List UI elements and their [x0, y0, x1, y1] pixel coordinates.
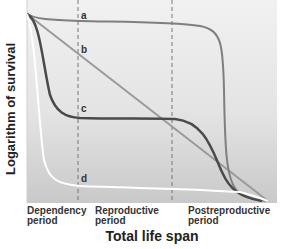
x-tick-postreproductive-line2: period — [188, 216, 270, 226]
x-tick-postreproductive: Postreproductive period — [188, 206, 270, 226]
x-tick-reproductive-line2: period — [95, 216, 159, 226]
y-axis-label: Logarithm of survival — [3, 43, 18, 175]
x-tick-dependency: Dependency period — [27, 206, 86, 226]
curve-label-d: d — [81, 173, 87, 184]
curve-b — [27, 14, 268, 201]
curve-label-c: c — [81, 103, 87, 114]
x-tick-reproductive: Reproductive period — [95, 206, 159, 226]
curve-label-b: b — [81, 44, 87, 55]
x-axis-label: Total life span — [0, 228, 284, 244]
x-tick-dependency-line2: period — [27, 216, 86, 226]
curve-label-a: a — [81, 10, 87, 21]
